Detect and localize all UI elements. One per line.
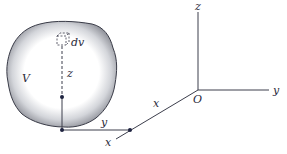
z-distance-label: z — [66, 67, 73, 80]
x-axis-label: x — [105, 136, 112, 149]
diagram-canvas: dv z V y x x z y O — [0, 0, 287, 154]
body-label: V — [22, 72, 31, 85]
z-axis-label: z — [194, 0, 201, 13]
x-distance-label: x — [153, 97, 160, 110]
point-marker-upper — [60, 95, 64, 99]
point-marker-x-axis — [128, 128, 132, 132]
element-label: dv — [71, 36, 85, 49]
point-marker-corner — [60, 128, 64, 132]
y-distance-label: y — [100, 116, 108, 129]
origin-label: O — [193, 93, 202, 106]
y-axis-label: y — [272, 84, 280, 97]
